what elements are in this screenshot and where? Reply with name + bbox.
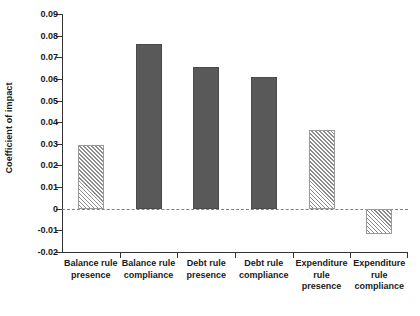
- bar-5: [309, 130, 335, 209]
- x-axis-label-line: presence: [62, 270, 120, 282]
- y-axis-tick-label: 0.06: [40, 74, 58, 84]
- y-axis-tick-label: -0.02: [37, 247, 58, 257]
- x-axis-label-line: Debt rule: [235, 258, 293, 270]
- y-axis-tick-label: 0.09: [40, 9, 58, 19]
- bar-3: [193, 67, 219, 209]
- x-axis-label-line: compliance: [235, 270, 293, 282]
- y-axis-tick-label: -0.01: [37, 225, 58, 235]
- x-axis-label-6: Expenditurerulecompliance: [350, 258, 408, 293]
- bar-chart: Coefficient of impact 0.090.080.070.060.…: [0, 0, 420, 316]
- zero-reference-line: [62, 209, 408, 210]
- x-axis-label-3: Debt rulepresence: [177, 258, 235, 281]
- x-axis-label-line: Debt rule: [177, 258, 235, 270]
- y-axis-line: [62, 14, 63, 252]
- x-axis-label-line: presence: [177, 270, 235, 282]
- x-axis-label-line: rule: [350, 270, 408, 282]
- x-axis-label-line: Balance rule: [120, 258, 178, 270]
- y-axis-tick-label: 0.04: [40, 117, 58, 127]
- y-axis-title-text: Coefficient of impact: [4, 82, 14, 173]
- y-axis-tick-label: 0.05: [40, 96, 58, 106]
- x-axis-category-labels: Balance rulepresenceBalance rulecomplian…: [62, 258, 408, 316]
- x-axis-label-2: Balance rulecompliance: [120, 258, 178, 281]
- bar-1: [78, 145, 104, 209]
- bar-6: [366, 209, 392, 234]
- x-axis-label-1: Balance rulepresence: [62, 258, 120, 281]
- plot-area: 0.090.080.070.060.050.040.030.020.010-0.…: [62, 14, 408, 252]
- x-axis-label-line: compliance: [350, 281, 408, 293]
- x-axis-label-line: compliance: [120, 270, 178, 282]
- x-axis-label-line: rule presence: [293, 270, 351, 293]
- y-axis-tick-label: 0.08: [40, 31, 58, 41]
- y-axis-tick-label: 0.01: [40, 182, 58, 192]
- y-axis-title: Coefficient of impact: [0, 0, 18, 255]
- y-axis-tick-label: 0: [53, 204, 58, 214]
- x-axis-label-4: Debt rulecompliance: [235, 258, 293, 281]
- x-axis-label-line: Expenditure: [293, 258, 351, 270]
- bar-4: [251, 77, 277, 209]
- x-axis-label-5: Expenditurerule presence: [293, 258, 351, 293]
- y-axis-tick-label: 0.03: [40, 139, 58, 149]
- x-axis-label-line: Balance rule: [62, 258, 120, 270]
- x-axis-label-line: Expenditure: [350, 258, 408, 270]
- y-axis-tick-label: 0.07: [40, 52, 58, 62]
- bar-2: [136, 44, 162, 208]
- y-axis-tick-label: 0.02: [40, 160, 58, 170]
